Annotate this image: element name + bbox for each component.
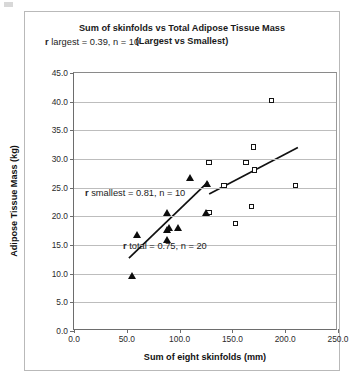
y-tick-label: 40.0 [52,97,68,107]
chart-title-line1: Sum of skinfolds vs Total Adipose Tissue… [79,23,285,33]
y-tick-mark [70,102,74,103]
y-axis-title: Adipose Tissue Mass (kg) [7,72,21,330]
y-tick-mark [70,302,74,303]
x-tick-mark [232,329,233,333]
y-tick-label: 15.0 [52,240,68,250]
y-tick-label: 25.0 [52,183,68,193]
annotation-r-total: r total = 0.75, n = 20 [123,241,207,251]
data-point-largest [293,183,298,188]
gridline-horizontal [74,302,336,303]
trendlines-layer [74,73,338,331]
x-tick-label: 50.0 [119,334,135,344]
chart-page: Sum of skinfolds vs Total Adipose Tissue… [0,0,358,390]
x-axis-title: Sum of eight skinfolds (mm) [73,352,337,362]
gridline-horizontal [74,130,336,131]
data-point-largest [206,160,211,165]
y-tick-label: 10.0 [52,269,68,279]
data-point-largest [233,221,238,226]
data-point-smallest [128,272,136,279]
x-tick-mark [127,329,128,333]
x-tick-label: 150.0 [222,334,243,344]
y-tick-mark [70,216,74,217]
data-point-largest [221,183,226,188]
y-tick-mark [70,130,74,131]
plot-area: 0.05.010.015.020.025.030.035.040.045.00.… [73,72,337,330]
data-point-largest [249,204,254,209]
data-point-smallest [203,180,211,187]
x-tick-mark [338,329,339,333]
x-tick-label: 100.0 [169,334,190,344]
x-tick-mark [180,329,181,333]
data-point-largest [251,144,256,149]
data-point-smallest [186,174,194,181]
y-tick-mark [70,274,74,275]
annotation-r-largest: r largest = 0.39, n = 10 [45,37,139,47]
annotation-r-largest-text: largest = 0.39, n = 10 [49,37,139,47]
y-tick-mark [70,245,74,246]
x-tick-label: 250.0 [328,334,349,344]
annotation-r-smallest: r smallest = 0.81, n = 10 [85,188,185,198]
data-point-smallest [202,209,210,216]
data-point-smallest [174,224,182,231]
data-point-largest [269,98,274,103]
x-tick-mark [285,329,286,333]
x-tick-label: 200.0 [275,334,296,344]
y-tick-label: 20.0 [52,211,68,221]
data-point-smallest [165,224,173,231]
x-tick-mark [74,329,75,333]
data-point-smallest [133,231,141,238]
annotation-r-total-text: total = 0.75, n = 20 [127,241,207,251]
y-tick-mark [70,188,74,189]
gridline-horizontal [74,216,336,217]
y-tick-label: 45.0 [52,68,68,78]
y-tick-label: 35.0 [52,125,68,135]
y-tick-label: 30.0 [52,154,68,164]
y-tick-label: 0.0 [56,326,68,336]
annotation-r-smallest-text: smallest = 0.81, n = 10 [89,188,186,198]
data-point-smallest [163,209,171,216]
data-point-largest [252,167,257,172]
y-tick-mark [70,159,74,160]
gridline-horizontal [74,102,336,103]
gridline-horizontal [74,159,336,160]
data-point-largest [243,160,248,165]
scan-artifact [4,2,13,7]
x-tick-label: 0.0 [68,334,80,344]
y-tick-label: 5.0 [56,297,68,307]
y-tick-mark [70,73,74,74]
gridline-horizontal [74,274,336,275]
